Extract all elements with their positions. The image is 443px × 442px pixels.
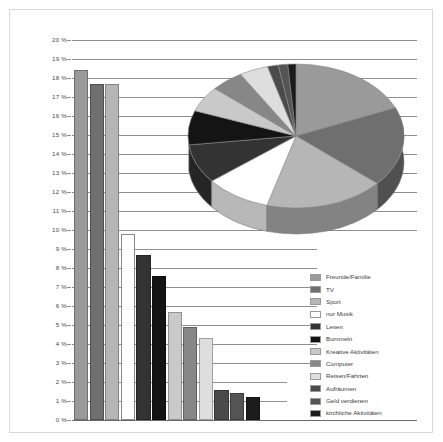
bar	[121, 234, 135, 420]
legend-item: Freunde/Familie	[310, 271, 440, 283]
y-axis-tickmark	[67, 211, 71, 212]
y-axis-tick-label: 15 %	[34, 131, 67, 138]
y-axis-tickmark	[67, 40, 71, 41]
y-axis-tickmark	[67, 154, 71, 155]
y-axis-tickmark	[67, 401, 71, 402]
legend-swatch	[310, 323, 321, 330]
y-axis-tickmark	[67, 116, 71, 117]
y-axis-tickmark	[67, 230, 71, 231]
y-axis-tick-label: 16 %	[34, 112, 67, 119]
y-axis-tick-label: 0 %	[34, 416, 67, 423]
y-axis-tickmark	[67, 192, 71, 193]
legend-swatch	[310, 274, 321, 281]
legend-item: Bummeln	[310, 333, 440, 345]
bar	[230, 393, 244, 420]
legend-item: Geld verdienen	[310, 395, 440, 407]
legend-swatch	[310, 311, 321, 318]
bar	[90, 84, 104, 420]
legend-label: nur Musik	[326, 310, 353, 318]
legend-swatch	[310, 398, 321, 405]
pie-chart	[180, 38, 420, 253]
legend-swatch	[310, 298, 321, 305]
y-axis-tickmark	[67, 97, 71, 98]
chart-frame: 20 %19 %18 %17 %16 %15 %14 %13 %12 %11 %…	[9, 9, 433, 433]
bar	[168, 312, 182, 420]
y-axis-tick-label: 4 %	[34, 340, 67, 347]
legend-label: Lesen	[326, 323, 343, 331]
pie-chart-svg	[180, 38, 420, 253]
legend-swatch	[310, 385, 321, 392]
y-axis-tickmark	[67, 78, 71, 79]
legend-label: Kreative Aktivitäten	[326, 348, 379, 356]
y-axis-tick-label: 12 %	[34, 188, 67, 195]
y-axis-tick-label: 10 %	[34, 226, 67, 233]
y-axis-tick-label: 7 %	[34, 283, 67, 290]
legend-item: Kreative Aktivitäten	[310, 345, 440, 357]
legend-swatch	[310, 360, 321, 367]
y-axis-tickmark	[67, 135, 71, 136]
legend-label: Bummeln	[326, 335, 352, 343]
y-axis-tick-label: 2 %	[34, 378, 67, 385]
bar	[183, 327, 197, 420]
legend-label: Aufräumen	[326, 385, 356, 393]
legend-swatch	[310, 348, 321, 355]
y-axis-tick-label: 11 %	[34, 207, 67, 214]
legend-swatch	[310, 336, 321, 343]
legend-item: Computer	[310, 358, 440, 370]
y-axis-tick-label: 9 %	[34, 245, 67, 252]
legend-item: Reisen/Fahrten	[310, 370, 440, 382]
legend-label: Freunde/Familie	[326, 273, 371, 281]
bar	[214, 390, 228, 420]
y-axis-tick-label: 19 %	[34, 55, 67, 62]
legend-label: Geld verdienen	[326, 397, 368, 405]
legend-label: Reisen/Fahrten	[326, 372, 368, 380]
legend-item: nur Musik	[310, 308, 440, 320]
legend-label: kirchliche Aktivitäten	[326, 409, 382, 417]
y-axis-tick-label: 3 %	[34, 359, 67, 366]
legend-item: kirchliche Aktivitäten	[310, 407, 440, 419]
y-axis-tickmark	[67, 363, 71, 364]
legend-label: TV	[326, 286, 334, 294]
y-axis-tickmark	[67, 287, 71, 288]
y-axis-tickmark	[67, 420, 71, 421]
x-axis-baseline	[72, 420, 417, 421]
y-axis-tick-label: 1 %	[34, 397, 67, 404]
legend-swatch	[310, 373, 321, 380]
y-axis-tick-label: 5 %	[34, 321, 67, 328]
legend-label: Sport	[326, 298, 341, 306]
y-axis-tickmark	[67, 382, 71, 383]
bar	[199, 338, 213, 420]
bar	[105, 84, 119, 420]
y-axis-tickmark	[67, 59, 71, 60]
legend-item: Lesen	[310, 321, 440, 333]
y-axis-tickmark	[67, 268, 71, 269]
y-axis-tick-label: 6 %	[34, 302, 67, 309]
y-axis-tick-label: 14 %	[34, 150, 67, 157]
y-axis-tick-label: 8 %	[34, 264, 67, 271]
y-axis-tick-label: 18 %	[34, 74, 67, 81]
y-axis-tick-label: 13 %	[34, 169, 67, 176]
chart-canvas: 20 %19 %18 %17 %16 %15 %14 %13 %12 %11 %…	[0, 0, 443, 442]
bar	[136, 255, 150, 420]
y-axis-tickmark	[67, 344, 71, 345]
bar	[152, 276, 166, 420]
legend-swatch	[310, 286, 321, 293]
y-axis-tickmark	[67, 325, 71, 326]
y-axis-tickmark	[67, 249, 71, 250]
legend-label: Computer	[326, 360, 353, 368]
y-axis-tick-label: 20 %	[34, 36, 67, 43]
bar	[246, 397, 260, 420]
legend-item: Aufräumen	[310, 383, 440, 395]
y-axis-tickmark	[67, 173, 71, 174]
legend-item: Sport	[310, 296, 440, 308]
y-axis-tick-label: 17 %	[34, 93, 67, 100]
bar	[74, 70, 88, 420]
y-axis-tickmark	[67, 306, 71, 307]
legend-swatch	[310, 410, 321, 417]
chart-legend: Freunde/FamilieTVSportnur MusikLesenBumm…	[310, 271, 440, 420]
legend-item: TV	[310, 283, 440, 295]
